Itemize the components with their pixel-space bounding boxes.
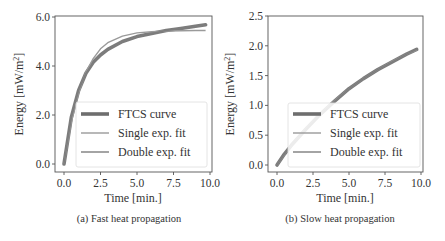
y-tick-label: 0.0 [249,159,264,171]
x-tick-label: 7.5 [166,177,181,189]
legend-label: Single exp. fit [330,126,398,140]
x-tick-label: 0.0 [270,177,285,189]
chart-b-x-axis-label: Time [min.] [316,191,374,205]
x-tick-label: 0.0 [57,177,72,189]
x-tick-label: 10.0 [411,177,431,189]
y-tick-label: 2.0 [36,109,51,121]
y-tick-label: 1.0 [249,99,264,111]
chart-a-y-axis-label: Energy [mW/m2] [12,53,27,136]
legend-label: Single exp. fit [118,126,186,140]
chart-b-y-axis-label: Energy [mW/m2] [223,53,238,136]
chart-a-x-ticks: 0.0 2.5 5.0 7.5 10.0 [57,172,221,189]
x-tick-label: 7.5 [378,177,393,189]
y-tick-label: 2.5 [249,10,264,22]
figure-canvas: 0.0 2.0 4.0 6.0 0.0 2.5 5.0 7.5 10.0 Tim… [0,0,445,241]
chart-b-x-ticks: 0.0 2.5 5.0 7.5 10.0 [270,172,432,189]
y-tick-label: 1.5 [249,70,264,82]
legend-label: FTCS curve [330,107,388,121]
chart-a-y-ticks: 0.0 2.0 4.0 6.0 [36,11,55,170]
y-tick-label: 2.0 [249,40,264,52]
chart-a-legend: FTCS curve Single exp. fit Double exp. f… [76,102,207,167]
x-tick-label: 2.5 [93,177,108,189]
y-tick-label: 4.0 [36,60,51,72]
chart-a: 0.0 2.0 4.0 6.0 0.0 2.5 5.0 7.5 10.0 Tim… [12,11,221,225]
chart-b-y-ticks: 0.0 0.5 1.0 1.5 2.0 2.5 [249,10,268,171]
y-tick-label: 6.0 [36,11,51,23]
chart-a-x-axis-label: Time [min.] [104,191,162,205]
chart-a-caption: (a) Fast heat propagation [77,213,182,225]
x-tick-label: 10.0 [200,177,220,189]
y-tick-label: 0.0 [36,158,51,170]
chart-b: 0.0 0.5 1.0 1.5 2.0 2.5 0.0 2.5 5.0 7.5 … [223,10,432,225]
x-tick-label: 5.0 [130,177,145,189]
legend-label: FTCS curve [118,107,176,121]
legend-label: Double exp. fit [330,145,403,159]
x-tick-label: 2.5 [306,177,321,189]
chart-b-legend: FTCS curve Single exp. fit Double exp. f… [288,103,420,167]
legend-label: Double exp. fit [118,145,191,159]
x-tick-label: 5.0 [342,177,357,189]
y-tick-label: 0.5 [249,129,264,141]
chart-b-caption: (b) Slow heat propagation [285,213,395,225]
